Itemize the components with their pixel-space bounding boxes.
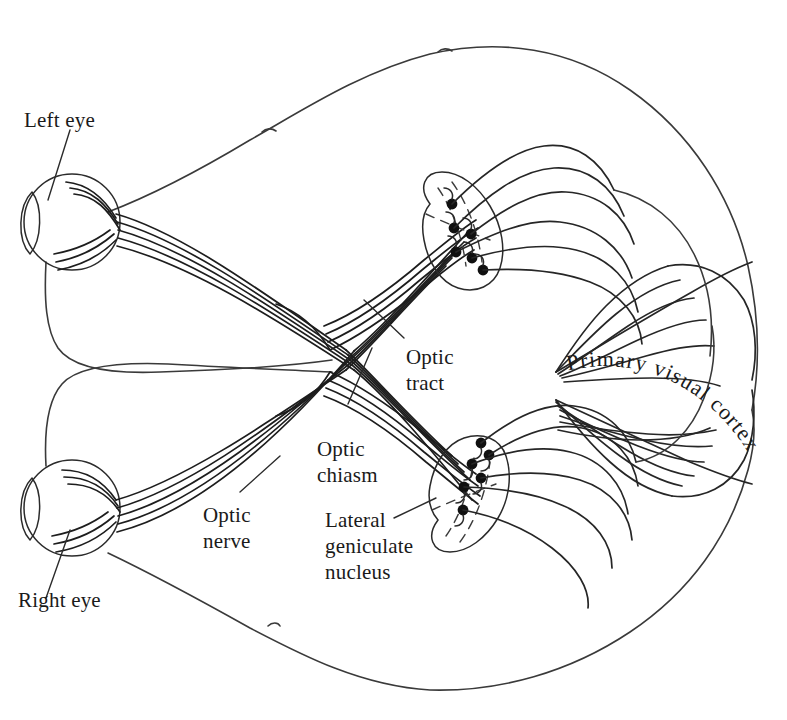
right-eye-retinal-fiber-4	[56, 522, 116, 552]
right-optic-nerve-fiber-3	[118, 360, 350, 516]
brain-outline-notch-lower	[268, 623, 280, 626]
lower-cortex-fold-5	[560, 416, 712, 447]
lower-cortex-folds-group	[556, 390, 754, 497]
label-right-eye: Right eye	[18, 588, 101, 614]
label-lgn-line2: geniculate	[325, 534, 413, 560]
uncrossed-fiber-u3	[326, 228, 478, 334]
uncrossed-fiber-u1	[330, 250, 474, 350]
right-eye-group	[21, 460, 120, 556]
lower-radiation-2	[489, 427, 638, 486]
lower-radiation-6	[463, 510, 588, 608]
label-lgn-line1: Lateral	[325, 508, 386, 534]
label-left-eye: Left eye	[24, 108, 95, 134]
crossed-fiber-r5	[354, 232, 468, 351]
label-optic-chiasm-line2: chiasm	[317, 463, 378, 489]
upper-optic-radiation-group	[452, 145, 642, 344]
right-eye-retinal-fiber-1	[62, 470, 116, 500]
left-optic-nerve-group	[116, 214, 354, 370]
left-eye-group	[21, 174, 120, 270]
occipital-pole-contour	[614, 190, 711, 356]
left-optic-nerve-fiber-5	[117, 246, 354, 370]
lower-radiation-5	[464, 487, 612, 568]
orbit-wall-left-upper	[45, 262, 332, 372]
left-eye-retinal-fiber-5	[56, 234, 114, 262]
lower-lgn-dendrite-6	[455, 515, 464, 526]
lower-lgn-dendrite-2	[481, 460, 490, 471]
left-eye-retinal-fiber-6	[54, 230, 110, 254]
lower-cortex-fold-1	[556, 400, 672, 496]
upper-radiation-5	[472, 246, 638, 312]
upper-cortex-fold-3	[558, 298, 694, 374]
label-optic-tract-line1: Optic	[406, 345, 454, 371]
upper-cortex-fold-1	[556, 266, 668, 372]
right-eye-retinal-fiber-5	[54, 516, 114, 544]
leader-lgn	[394, 498, 436, 518]
upper-cortex-fold-5	[562, 345, 714, 378]
leader-optic-nerve	[240, 456, 280, 492]
leader-left-eye	[48, 130, 70, 200]
label-optic-nerve-line1: Optic	[203, 503, 251, 529]
brain-outline-group	[45, 47, 757, 690]
upper-lgn-dendrite-1	[444, 188, 453, 199]
right-eye-globe	[24, 460, 120, 556]
right-optic-nerve-fiber-1	[116, 370, 346, 500]
diagram-canvas: Primary visual cortex	[0, 0, 787, 720]
chiasm-side-curve-lower	[276, 372, 330, 416]
label-optic-tract-line2: tract	[406, 371, 444, 397]
label-optic-nerve-line2: nerve	[203, 529, 251, 555]
label-optic-chiasm-line1: Optic	[317, 437, 365, 463]
upper-cortex-fold-6	[564, 378, 720, 386]
label-lgn-line3: nucleus	[325, 560, 391, 586]
lower-lgn-dendrite-1	[473, 448, 482, 459]
lower-radiation-3	[472, 449, 628, 514]
visual-pathway-figure: Primary visual cortex Left eye Right eye…	[0, 0, 787, 720]
right-eye-retinal-fiber-6	[52, 512, 108, 536]
upper-radiation-2	[454, 168, 624, 228]
